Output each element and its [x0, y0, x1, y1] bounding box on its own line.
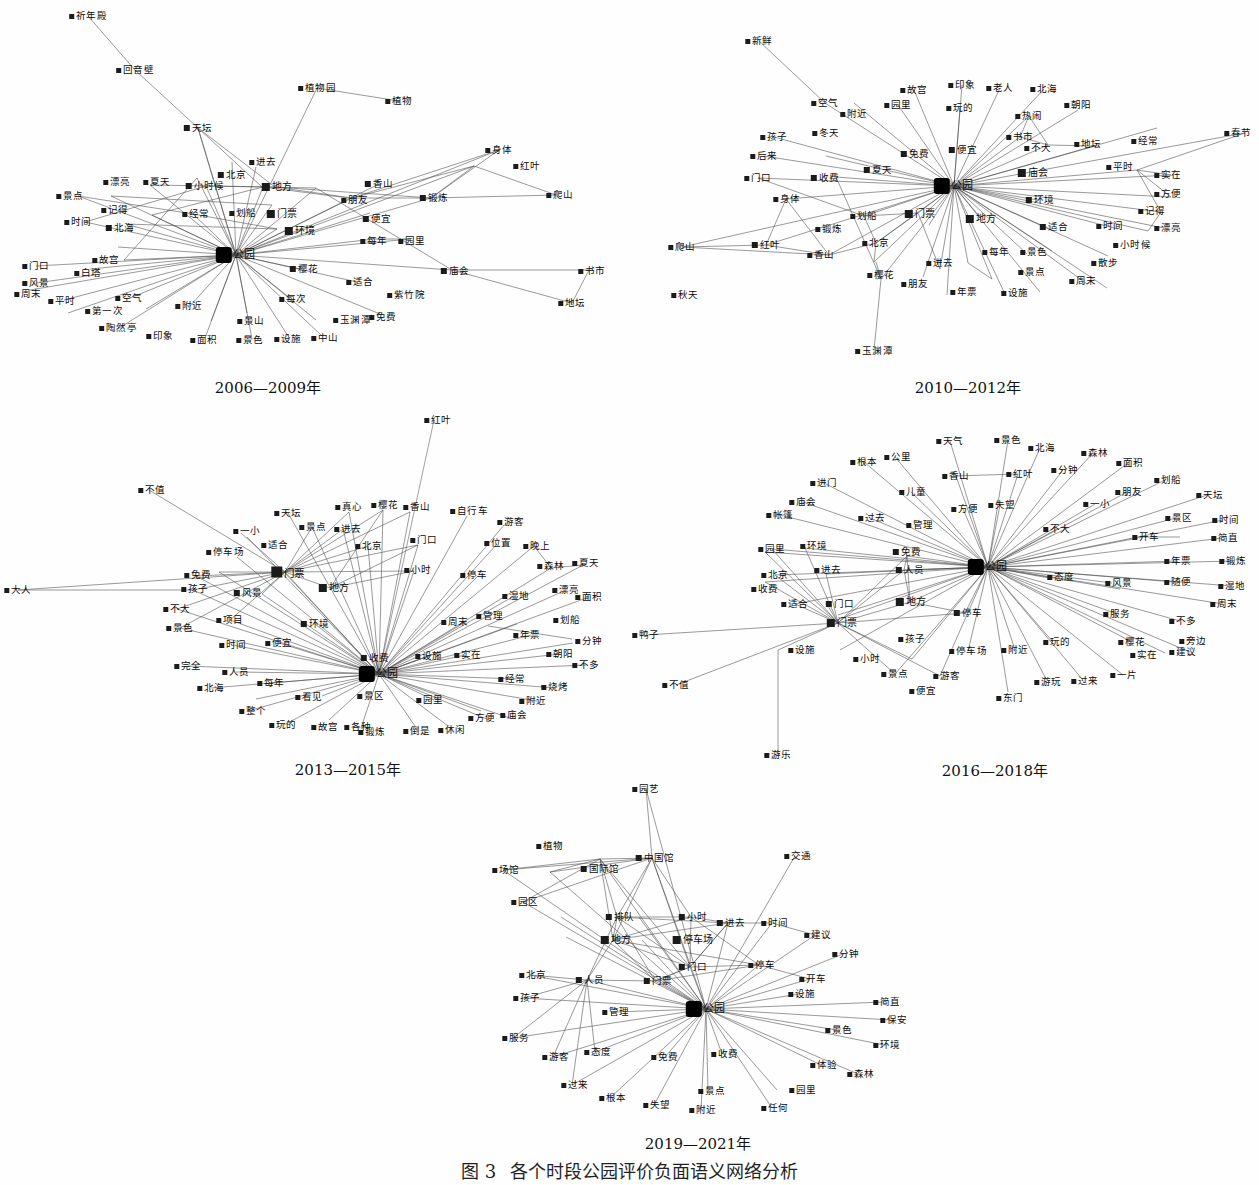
node-gong-li[interactable]: 公里 — [884, 452, 911, 462]
node-mian-fei[interactable]: 免费 — [184, 570, 211, 580]
node-ting-che-chang[interactable]: 停车场 — [949, 646, 987, 656]
node-she-shi[interactable]: 设施 — [274, 334, 301, 344]
node-kong-qi[interactable]: 空气 — [811, 98, 838, 108]
node-shi-zai[interactable]: 实在 — [1130, 650, 1157, 660]
node-huan-jing[interactable]: 环境 — [873, 1040, 900, 1050]
node-men-piao[interactable]: 门票 — [267, 209, 297, 219]
node-men-piao[interactable]: 门票 — [905, 209, 935, 219]
node-zi-xing-che[interactable]: 自行车 — [450, 506, 488, 516]
node-bei-jing[interactable]: 北京 — [761, 570, 788, 580]
node-fang-bian[interactable]: 方便 — [951, 504, 978, 514]
node-zhang-peng[interactable]: 帐篷 — [766, 510, 793, 520]
node-kai-che[interactable]: 开车 — [1132, 532, 1159, 542]
node-san-bu[interactable]: 散步 — [1091, 258, 1118, 268]
node-hua-chuan[interactable]: 划船 — [553, 615, 580, 625]
node-duan-lian[interactable]: 锻炼 — [420, 193, 448, 203]
node-kong-qi[interactable]: 空气 — [115, 293, 142, 303]
node-pian-yi[interactable]: 便宜 — [949, 145, 977, 155]
node-hui-yin-bi[interactable]: 回音壁 — [116, 65, 154, 75]
node-pian-yi[interactable]: 便宜 — [363, 214, 391, 224]
node-wan-de[interactable]: 玩的 — [946, 103, 973, 113]
node-di-yi-ci[interactable]: 第一次 — [85, 306, 123, 316]
node-xia-tian[interactable]: 夏天 — [143, 177, 170, 187]
node-fu-jin[interactable]: 附近 — [689, 1105, 716, 1115]
node-bei-hai[interactable]: 北海 — [197, 683, 224, 693]
node-shi-he[interactable]: 适合 — [261, 540, 288, 550]
node-bai-ta[interactable]: 白塔 — [74, 268, 101, 278]
node-tian-tan[interactable]: 天坛 — [274, 508, 301, 518]
node-ting-che-chang[interactable]: 停车场 — [673, 935, 714, 945]
node-yi-pian[interactable]: 一片 — [1110, 670, 1137, 680]
node-hong-ye[interactable]: 红叶 — [424, 415, 451, 425]
node-jing-dian[interactable]: 景点 — [698, 1086, 725, 1096]
node-shu-shi[interactable]: 书市 — [578, 266, 605, 276]
node-sen-lin[interactable]: 森林 — [1081, 448, 1108, 458]
node-miao-hui[interactable]: 庙会 — [1018, 168, 1048, 178]
node-bu-duo[interactable]: 不多 — [572, 660, 599, 670]
node-chun-jie[interactable]: 春节 — [1224, 128, 1251, 138]
node-yu-yuan-tan[interactable]: 玉渊潭 — [855, 346, 893, 356]
node-xiao-shi-hou[interactable]: 小时候 — [1113, 240, 1151, 250]
node-chao-yang[interactable]: 朝阳 — [1064, 100, 1091, 110]
node-shou-fei[interactable]: 收费 — [751, 584, 778, 594]
node-shou-fei[interactable]: 收费 — [811, 173, 839, 183]
node-huan-jing[interactable]: 环境 — [1026, 195, 1054, 205]
node-ting-che[interactable]: 停车 — [954, 608, 982, 618]
node-shou-fei[interactable]: 收费 — [361, 653, 389, 663]
node-she-shi[interactable]: 设施 — [415, 651, 442, 661]
node-men-kou[interactable]: 门口 — [744, 173, 771, 183]
node-shi-jian[interactable]: 时间 — [64, 217, 91, 227]
node-jian-yi[interactable]: 建议 — [1169, 647, 1196, 657]
node-hua-chuan[interactable]: 划船 — [1154, 475, 1181, 485]
node-ren-he[interactable]: 任何 — [761, 1103, 788, 1113]
node-fu-jin[interactable]: 附近 — [519, 696, 546, 706]
node-xiang-shan[interactable]: 香山 — [365, 179, 393, 189]
node-ying-hua[interactable]: 樱花 — [1118, 637, 1145, 647]
node-jing-dian[interactable]: 景点 — [299, 522, 326, 532]
node-er-tong[interactable]: 儿童 — [899, 487, 926, 497]
node-jing-dian[interactable]: 景点 — [56, 191, 83, 201]
node-jing-se[interactable]: 景色 — [236, 335, 263, 345]
node-bei-jing[interactable]: 北京 — [218, 170, 246, 180]
node-yuan-li[interactable]: 园里 — [398, 236, 425, 246]
node-yi-xiao[interactable]: 一小 — [233, 526, 260, 536]
node-piao-liang[interactable]: 漂亮 — [1154, 223, 1181, 233]
node-gen-ben[interactable]: 根本 — [599, 1093, 626, 1103]
node-wei-zhi[interactable]: 位置 — [484, 538, 511, 548]
node-pai-dui[interactable]: 排队 — [606, 912, 634, 922]
node-gu-gong[interactable]: 故宫 — [311, 722, 338, 732]
node-jing-chang[interactable]: 经常 — [182, 209, 209, 219]
node-zi-zhu-yuan[interactable]: 紫竹院 — [387, 290, 425, 300]
node-xiu-xian[interactable]: 休闲 — [438, 725, 465, 735]
node-xin-xian[interactable]: 新鲜 — [745, 36, 772, 46]
node-yi-xiao[interactable]: 一小 — [1083, 499, 1110, 509]
node-jing-dian[interactable]: 景点 — [1018, 267, 1045, 277]
node-men-kou[interactable]: 门口 — [22, 261, 49, 271]
node-peng-you[interactable]: 朋友 — [341, 195, 368, 205]
node-jing-qu[interactable]: 景区 — [357, 691, 384, 701]
node-yuan-qu[interactable]: 园区 — [511, 897, 538, 907]
node-fen-zhong[interactable]: 分钟 — [575, 636, 602, 646]
node-zhou-mo[interactable]: 周末 — [1210, 599, 1237, 609]
node-bu-zhi[interactable]: 不值 — [138, 485, 165, 495]
node-shi-zai[interactable]: 实在 — [454, 650, 481, 660]
node-zhi-wu[interactable]: 植物 — [385, 96, 412, 106]
node-ya-zi[interactable]: 鸭子 — [632, 630, 659, 640]
node-guan-li[interactable]: 管理 — [602, 1007, 629, 1017]
node-men-kou[interactable]: 门口 — [826, 599, 854, 609]
node-wan-quan[interactable]: 完全 — [174, 661, 201, 671]
node-wan-de[interactable]: 玩的 — [269, 720, 296, 730]
node-sen-lin[interactable]: 森林 — [847, 1069, 874, 1079]
node-hou-lai[interactable]: 后来 — [750, 151, 777, 161]
node-jin-qu[interactable]: 进去 — [249, 157, 276, 167]
node-yin-xiang[interactable]: 印象 — [948, 80, 975, 90]
node-you-wan[interactable]: 游玩 — [1034, 677, 1061, 687]
node-chang-guan[interactable]: 场馆 — [492, 865, 519, 875]
node-pian-yi[interactable]: 便宜 — [909, 686, 936, 696]
node-you-ke[interactable]: 游客 — [497, 517, 524, 527]
node-kan-jian[interactable]: 看见 — [295, 692, 322, 702]
node-di-tan[interactable]: 地坛 — [558, 298, 585, 308]
node-fen-zhong[interactable]: 分钟 — [1051, 465, 1078, 475]
node-jing-dian[interactable]: 景点 — [881, 669, 908, 679]
node-ping-shi[interactable]: 平时 — [48, 296, 75, 306]
